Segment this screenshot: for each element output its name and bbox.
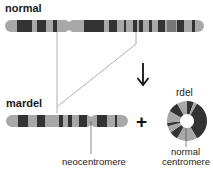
normal-chromosome xyxy=(5,20,204,32)
normal-title: normal xyxy=(5,3,42,14)
chromosome-band xyxy=(37,115,45,127)
down-arrow-icon xyxy=(138,63,149,85)
chromosome-band xyxy=(167,20,176,32)
chromosome-band xyxy=(177,20,184,32)
normal-centromere-label-line2: centromere xyxy=(162,157,210,167)
chromosome-band xyxy=(109,20,117,32)
mardel-chromosome xyxy=(6,115,128,127)
chromosome-band xyxy=(192,20,195,32)
chromosome-band xyxy=(68,115,72,127)
mapping-lines xyxy=(57,32,136,113)
chromosome-band xyxy=(37,20,46,32)
chromosome-band xyxy=(18,115,28,127)
chromosome-band xyxy=(53,20,57,32)
chromosome-band xyxy=(133,20,137,32)
plus-symbol: + xyxy=(136,112,147,131)
chromosome-band xyxy=(139,20,143,32)
right-mapping-line xyxy=(58,32,136,106)
mardel-title: mardel xyxy=(6,98,42,109)
chromosome-band xyxy=(158,20,165,32)
chromosome-band xyxy=(115,115,117,127)
chromosome-band xyxy=(84,20,104,32)
chromosome-band xyxy=(79,115,87,127)
rdel-ring-chromosome xyxy=(167,101,207,141)
neocentromere-label: neocentromere xyxy=(62,157,126,167)
rdel-title: rdel xyxy=(176,88,193,98)
chromosome-band xyxy=(59,115,63,127)
chromosome-band xyxy=(97,115,107,127)
chromosome-band xyxy=(124,20,126,32)
chromosome-band xyxy=(17,20,32,32)
chromosome-band xyxy=(149,20,152,32)
